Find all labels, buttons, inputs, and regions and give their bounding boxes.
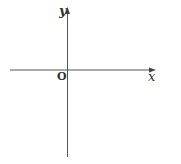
- coordinate-plane: y O x: [0, 0, 181, 164]
- x-axis-label: x: [148, 70, 155, 83]
- origin-label: O: [57, 71, 67, 82]
- y-axis-label: y: [59, 4, 67, 17]
